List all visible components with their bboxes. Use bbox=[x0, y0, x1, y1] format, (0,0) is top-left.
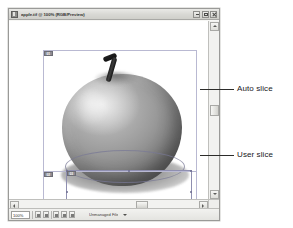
window-title: apple.tif @ 100% (RGB/Preview) bbox=[21, 12, 190, 17]
document-work-area: 01 02 03 bbox=[9, 20, 219, 208]
slice-number-badge: 01 bbox=[44, 51, 53, 56]
photoshop-document-icon bbox=[11, 11, 18, 18]
status-tool-button-3[interactable] bbox=[53, 211, 59, 218]
callout-leader-line-user bbox=[200, 155, 234, 156]
triangle-down-icon[interactable] bbox=[123, 214, 127, 216]
document-info-text: Unmanaged File bbox=[89, 212, 118, 218]
status-tool-button-4[interactable] bbox=[61, 211, 67, 218]
minimize-button[interactable] bbox=[193, 11, 200, 18]
window-title-bar[interactable]: apple.tif @ 100% (RGB/Preview) bbox=[9, 9, 219, 20]
status-bar: 100% Unmanaged File bbox=[9, 208, 219, 220]
slice-handle-middle-right[interactable] bbox=[190, 191, 192, 193]
photoshop-document-window[interactable]: apple.tif @ 100% (RGB/Preview) bbox=[8, 8, 220, 221]
status-tool-button-1[interactable] bbox=[35, 211, 41, 218]
callout-label-user-slice: User slice bbox=[237, 150, 273, 160]
slice-number-badge: 02 bbox=[44, 172, 53, 177]
user-slice-region[interactable] bbox=[66, 170, 192, 199]
status-divider bbox=[51, 211, 52, 219]
callout-leader-line-auto bbox=[200, 89, 234, 90]
scroll-down-arrow-icon[interactable] bbox=[210, 190, 219, 199]
horizontal-scrollbar[interactable] bbox=[9, 199, 208, 208]
vertical-scrollbar-thumb[interactable] bbox=[210, 105, 219, 116]
slice-handle-top-center[interactable] bbox=[128, 170, 130, 172]
callout-label-auto-slice: Auto slice bbox=[237, 84, 273, 94]
status-divider bbox=[32, 211, 33, 219]
vertical-scrollbar[interactable] bbox=[208, 21, 219, 199]
scrollbar-corner bbox=[208, 199, 219, 208]
maximize-button[interactable] bbox=[202, 11, 209, 18]
slice-handle-top-right[interactable] bbox=[190, 170, 192, 172]
scroll-up-arrow-icon[interactable] bbox=[210, 22, 219, 31]
image-canvas[interactable]: 01 02 03 bbox=[9, 21, 208, 199]
close-button[interactable] bbox=[210, 11, 217, 18]
zoom-level-field[interactable]: 100% bbox=[11, 211, 30, 219]
slice-number-badge: 03 bbox=[67, 171, 76, 176]
status-tool-button-2[interactable] bbox=[43, 211, 49, 218]
slice-handle-middle-left[interactable] bbox=[66, 191, 68, 193]
window-controls bbox=[193, 11, 217, 18]
status-tool-button-5[interactable] bbox=[69, 211, 75, 218]
